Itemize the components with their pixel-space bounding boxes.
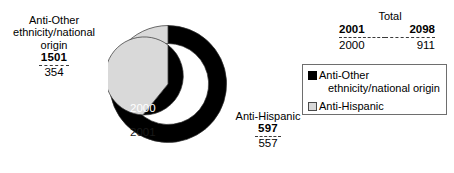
ring-label-2001: 2001 <box>130 126 156 138</box>
total-header-year: 2001 <box>339 23 385 38</box>
callout-anti-other-line1: Anti-Other <box>2 14 106 26</box>
legend-item-anti-other: Anti-Other ethnicity/national origin <box>308 69 441 94</box>
callout-anti-other-value-2000: 354 <box>2 66 106 79</box>
total-table-body-row: 2000 911 <box>339 38 441 53</box>
ring-label-2000: 2000 <box>130 102 156 114</box>
total-table-title: Total <box>339 10 441 23</box>
legend-anti-other-line1: Anti-Other <box>319 69 369 81</box>
callout-anti-other: Anti-Other ethnicity/national origin 150… <box>2 14 106 79</box>
light-square-swatch-icon <box>308 102 317 111</box>
legend-anti-hispanic-line1: Anti-Hispanic <box>319 100 384 112</box>
total-body-value: 911 <box>385 38 435 53</box>
callout-anti-hispanic-value-2000: 557 <box>229 137 307 150</box>
legend: Anti-Other ethnicity/national origin Ant… <box>302 64 447 115</box>
total-table-header-row: 2001 2098 <box>339 23 441 38</box>
legend-item-anti-hispanic-label: Anti-Hispanic <box>319 100 384 113</box>
nested-donut-chart: 2000 2001 <box>108 24 228 144</box>
callout-anti-hispanic-value-2001: 597 <box>229 122 307 135</box>
callout-anti-hispanic: Anti-Hispanic 597 557 <box>229 110 307 150</box>
chart-figure: Anti-Other ethnicity/national origin 150… <box>0 0 454 173</box>
legend-item-anti-hispanic: Anti-Hispanic <box>308 100 441 113</box>
donut-svg <box>108 24 228 144</box>
legend-item-anti-other-label: Anti-Other ethnicity/national origin <box>319 69 440 94</box>
legend-anti-other-line2: ethnicity/national origin <box>319 82 440 95</box>
callout-anti-other-line2: ethnicity/national <box>2 26 106 38</box>
callout-anti-hispanic-line1: Anti-Hispanic <box>229 110 307 122</box>
callout-anti-other-line3: origin <box>2 39 106 51</box>
total-table: Total 2001 2098 2000 911 <box>339 10 441 52</box>
callout-anti-other-value-2001: 1501 <box>2 51 106 64</box>
total-header-value: 2098 <box>385 23 435 38</box>
total-body-year: 2000 <box>339 38 385 53</box>
dark-square-swatch-icon <box>308 71 317 80</box>
